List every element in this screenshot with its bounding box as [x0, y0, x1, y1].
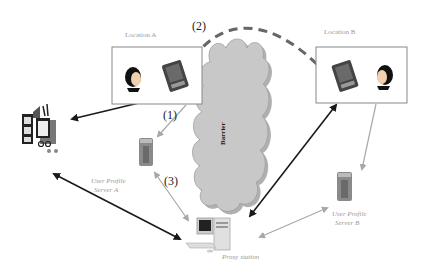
- step-2-label: (2): [192, 19, 206, 34]
- location-b-label: Location B: [324, 28, 355, 36]
- person-icon: [125, 67, 141, 92]
- proxy-label: Proxy station: [222, 253, 259, 261]
- location-a-label: Location A: [125, 31, 156, 39]
- server-b-icon: [337, 172, 352, 201]
- server-b-label-line1: User Profile: [332, 210, 367, 218]
- diagram: Location A Location B (2) (1) (3) Barrie…: [0, 0, 428, 274]
- step-3-label: (3): [164, 174, 178, 189]
- location-b-box: [316, 47, 407, 103]
- step-1-label: (1): [163, 108, 177, 123]
- server-a-label-line1: User Profile: [91, 177, 126, 185]
- server-a-icon: [139, 138, 153, 166]
- server-b-label-line2: Server B: [335, 219, 359, 227]
- arrow-server-b: [362, 104, 376, 169]
- barrier-cloud: [193, 39, 273, 214]
- proxy-computer-icon: [186, 218, 230, 253]
- services-icon: [22, 104, 58, 153]
- barrier-label: Barrier: [219, 122, 227, 145]
- server-a-label-line2: Server A: [94, 186, 118, 194]
- arrow-proxy-server-b: [260, 208, 327, 237]
- diagram-canvas: [0, 0, 428, 274]
